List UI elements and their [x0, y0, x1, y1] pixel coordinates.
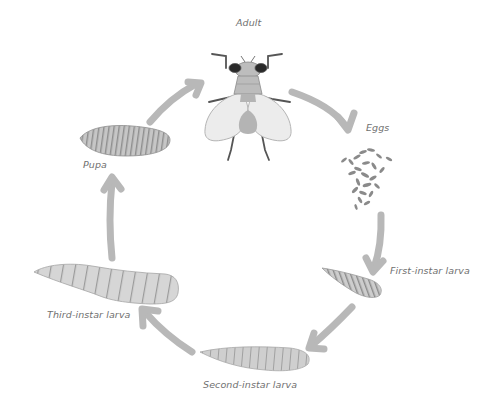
- second-instar-larva-illustration: [200, 347, 309, 371]
- life-cycle-diagram: Adult Eggs First-instar larva Second-ins…: [0, 0, 484, 415]
- label-adult: Adult: [236, 17, 261, 28]
- arrow-adult-to-eggs-icon: [292, 92, 354, 130]
- arrow-eggs-to-first-instar-icon: [366, 215, 383, 272]
- label-second-instar-larva: Second-instar larva: [203, 379, 297, 390]
- arrow-second-to-third-instar-icon: [142, 309, 192, 352]
- right-eye: [255, 64, 267, 73]
- arrow-first-to-second-instar-icon: [309, 307, 352, 349]
- arrow-pupa-to-adult-icon: [150, 82, 201, 122]
- label-pupa: Pupa: [83, 159, 107, 170]
- eggs-cluster-illustration: [340, 148, 392, 210]
- label-eggs: Eggs: [366, 122, 389, 133]
- left-eye: [229, 64, 241, 73]
- label-third-instar-larva: Third-instar larva: [47, 309, 131, 320]
- label-first-instar-larva: First-instar larva: [390, 265, 470, 276]
- arrow-third-instar-to-pupa-icon: [104, 177, 121, 258]
- adult-fly-illustration: [205, 54, 291, 160]
- pupa-illustration: [80, 126, 170, 157]
- third-instar-larva-illustration: [34, 264, 178, 304]
